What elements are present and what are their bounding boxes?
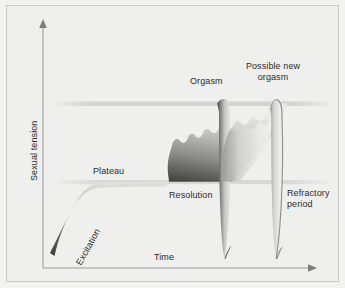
label-resolution: Resolution (169, 190, 213, 201)
excitation-plateau-ribbon (50, 182, 167, 257)
response-curve-group (50, 99, 287, 260)
label-refractory-period-line2: period (287, 199, 345, 210)
arrow-up-icon (39, 19, 47, 28)
y-axis-label: Sexual tension (29, 121, 40, 181)
label-orgasm: Orgasm (190, 76, 223, 87)
x-axis-label: Time (144, 252, 184, 263)
plot-svg (0, 0, 345, 288)
label-possible-new-orgasm: Possible new orgasm (236, 61, 310, 82)
label-possible-new-orgasm-line2: orgasm (236, 72, 310, 83)
orgasm-level-band (57, 102, 330, 107)
arrow-right-icon (308, 264, 317, 272)
label-refractory-period: Refractory period (287, 188, 345, 209)
label-possible-new-orgasm-line1: Possible new (236, 61, 310, 72)
sexual-response-cycle-figure: Sexual tension Time Excitation Plateau O… (0, 0, 345, 288)
label-refractory-period-line1: Refractory (287, 188, 345, 199)
label-plateau: Plateau (93, 166, 124, 177)
second-peak-ribbon (270, 99, 282, 259)
